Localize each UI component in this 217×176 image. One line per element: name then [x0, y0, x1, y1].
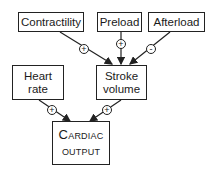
node-cardiac-output-label-2: output — [62, 143, 100, 159]
node-stroke-volume: Stroke volume — [96, 65, 147, 100]
node-preload: Preload — [97, 12, 142, 32]
sign-afterload: - — [146, 44, 156, 54]
node-afterload: Afterload — [148, 12, 205, 32]
node-contractility-label: Contractility — [21, 16, 81, 29]
node-preload-label: Preload — [100, 16, 140, 29]
node-cardiac-output: Cardiac output — [52, 121, 110, 165]
node-cardiac-output-label-1: Cardiac — [59, 127, 104, 143]
node-heart-rate-label-2: rate — [28, 83, 48, 96]
sign-contractility: + — [79, 44, 89, 54]
sign-heart-rate: + — [47, 105, 57, 115]
node-stroke-volume-label-2: volume — [103, 83, 140, 96]
node-stroke-volume-label-1: Stroke — [105, 70, 138, 83]
node-heart-rate: Heart rate — [12, 65, 64, 100]
sign-preload: + — [116, 39, 126, 49]
node-heart-rate-label-1: Heart — [24, 70, 52, 83]
node-afterload-label: Afterload — [153, 16, 199, 29]
node-contractility: Contractility — [18, 12, 84, 32]
sign-stroke-volume: + — [102, 105, 112, 115]
